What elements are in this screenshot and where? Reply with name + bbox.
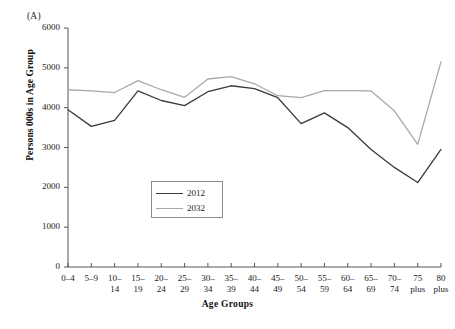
line-chart-plot (0, 0, 455, 329)
series-line-2032 (68, 62, 441, 144)
legend-swatch-2032 (156, 208, 183, 209)
legend-item-2032: 2032 (156, 202, 205, 214)
figure-panel-a: (A) Persons 000s in Age Group Age Groups… (0, 0, 455, 329)
series-line-2012 (68, 86, 441, 183)
legend-item-2012: 2012 (156, 187, 205, 199)
legend-label-2032: 2032 (187, 203, 205, 213)
legend-swatch-2012 (156, 193, 183, 194)
legend-label-2012: 2012 (187, 188, 205, 198)
chart-legend: 2012 2032 (151, 181, 223, 218)
